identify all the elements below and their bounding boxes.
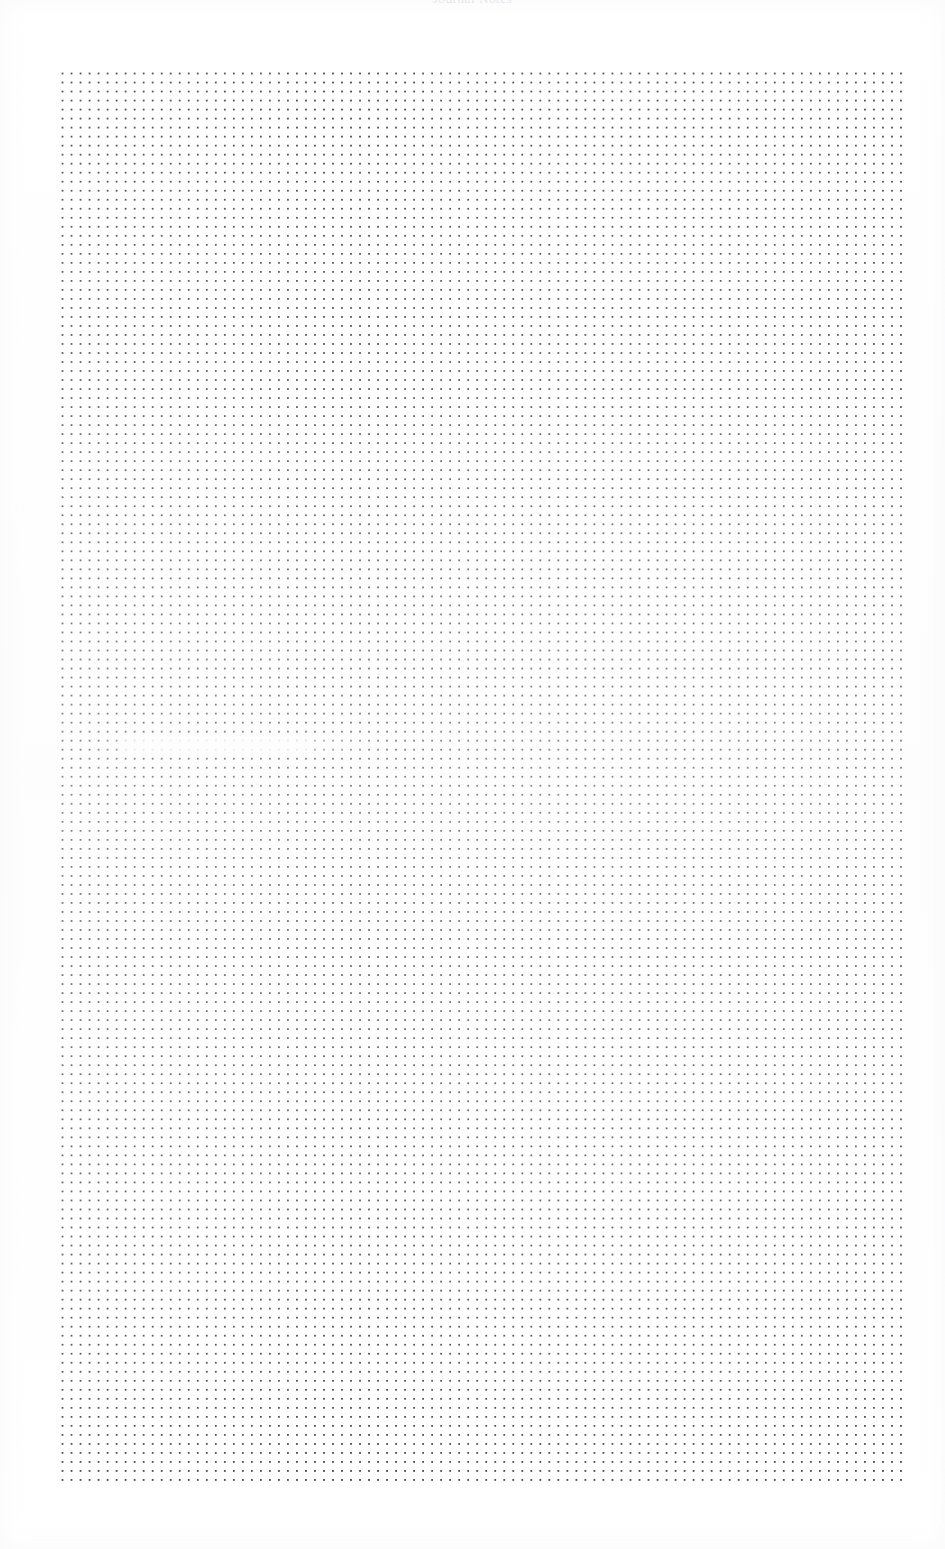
notebook-page: Journal Notes bbox=[0, 0, 945, 1549]
page-header-text: Journal Notes bbox=[0, 0, 945, 7]
dot-grid-area bbox=[57, 68, 906, 1487]
